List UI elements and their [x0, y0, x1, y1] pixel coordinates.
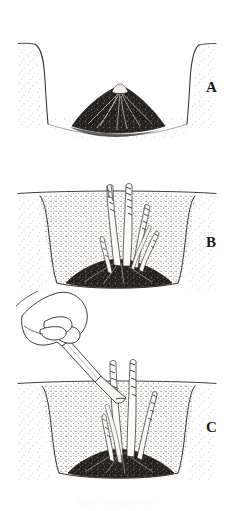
panel-label-c: C [206, 420, 217, 435]
figure-root: A B C Figure. Asparagus trench [0, 0, 234, 511]
panel-a-ground-line [18, 43, 216, 45]
panel-label-b: B [206, 235, 216, 250]
panel-a [18, 43, 216, 141]
panel-label-a: A [206, 80, 217, 95]
spear [127, 360, 136, 458]
panel-a-crown [72, 84, 165, 133]
panel-b [18, 184, 216, 291]
figure-caption: Figure. Asparagus trench [0, 498, 234, 507]
hand [16, 291, 87, 346]
panel-c [16, 291, 216, 480]
asparagus-illustration [0, 0, 234, 511]
